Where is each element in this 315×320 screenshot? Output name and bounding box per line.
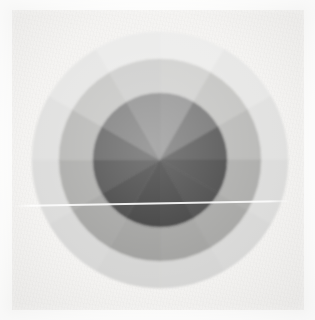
figure-root (0, 0, 315, 320)
ring-inner (93, 93, 227, 227)
radial-sector-chart (0, 0, 315, 320)
